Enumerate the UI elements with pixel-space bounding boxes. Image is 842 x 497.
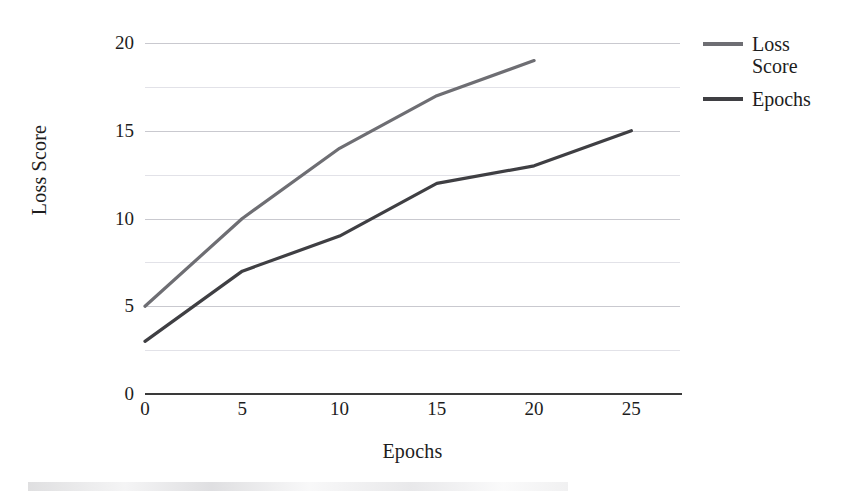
x-tick-label: 15 bbox=[407, 398, 467, 420]
series-line-1 bbox=[145, 61, 534, 307]
legend-swatch-icon bbox=[703, 42, 743, 46]
y-axis-title: Loss Score bbox=[28, 80, 68, 260]
x-tick-label: 10 bbox=[310, 398, 370, 420]
y-tick-label: 15 bbox=[82, 120, 134, 142]
chart-legend: Loss ScoreEpochs bbox=[703, 33, 838, 120]
line-chart-figure: Loss Score 05101520 0510152025 Epochs Lo… bbox=[0, 0, 842, 497]
series-lines bbox=[145, 43, 680, 394]
y-axis-tick-labels: 05101520 bbox=[72, 0, 134, 497]
y-tick-label: 10 bbox=[82, 208, 134, 230]
legend-label: Epochs bbox=[752, 88, 811, 110]
x-tick-label: 0 bbox=[115, 398, 175, 420]
x-tick-label: 5 bbox=[212, 398, 272, 420]
y-tick-label: 5 bbox=[82, 295, 134, 317]
legend-entry[interactable]: Loss Score bbox=[703, 33, 838, 78]
plot-area bbox=[145, 43, 680, 394]
x-tick-label: 20 bbox=[504, 398, 564, 420]
y-tick-label: 20 bbox=[82, 32, 134, 54]
legend-entry[interactable]: Epochs bbox=[703, 88, 838, 110]
legend-label: Loss Score bbox=[752, 33, 830, 78]
x-axis-line bbox=[145, 393, 682, 395]
x-tick-label: 25 bbox=[601, 398, 661, 420]
legend-swatch-icon bbox=[703, 97, 743, 101]
series-line-2 bbox=[145, 131, 631, 342]
x-axis-title: Epochs bbox=[145, 440, 680, 463]
scan-artifact bbox=[28, 482, 568, 491]
